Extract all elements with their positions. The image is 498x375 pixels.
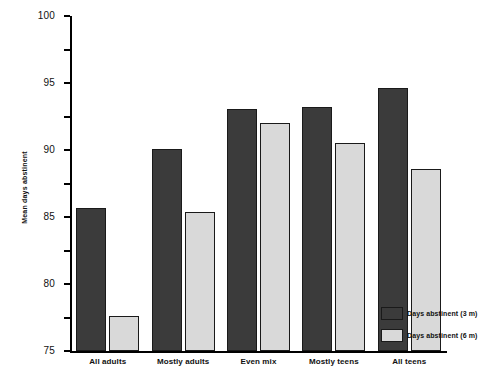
y-axis-tick-label: 90 — [43, 144, 55, 155]
x-axis-category-label: All teens — [372, 357, 447, 366]
bar-group: Mostly teens — [296, 16, 371, 351]
bar — [302, 107, 332, 351]
y-axis-tick-label: 95 — [43, 77, 55, 88]
bar-group: All teens — [372, 16, 447, 351]
bar-chart: Mean days abstinent 50556065707580859095… — [0, 0, 498, 375]
bar — [260, 123, 290, 351]
y-axis-tick-label: 85 — [43, 211, 55, 222]
bar — [185, 212, 215, 351]
x-axis-category-label: Even mix — [221, 357, 296, 366]
y-axis-tick-label: 80 — [43, 278, 55, 289]
legend-label: Days abstinent (3 m) — [407, 310, 477, 317]
bar — [76, 208, 106, 351]
x-axis-line — [70, 351, 447, 353]
y-axis-label: Mean days abstinent — [14, 0, 34, 375]
legend-label: Days abstinent (6 m) — [407, 332, 477, 339]
y-axis-tick-label: 75 — [43, 345, 55, 356]
legend-item: Days abstinent (3 m) — [381, 306, 498, 320]
bar — [335, 143, 365, 351]
x-axis-category-label: All adults — [70, 357, 145, 366]
legend-swatch — [381, 307, 403, 320]
plot-area: 50556065707580859095100 All adultsMostly… — [70, 16, 465, 351]
bar-group: Even mix — [221, 16, 296, 351]
y-axis-label-text: Mean days abstinent — [21, 151, 28, 224]
bar — [109, 316, 139, 351]
x-axis-category-label: Mostly adults — [145, 357, 220, 366]
bar-group: All adults — [70, 16, 145, 351]
bar — [152, 149, 182, 351]
x-axis-category-label: Mostly teens — [296, 357, 371, 366]
legend-item: Days abstinent (6 m) — [381, 328, 498, 342]
legend: Days abstinent (3 m)Days abstinent (6 m) — [381, 306, 498, 350]
bar-group: Mostly adults — [145, 16, 220, 351]
y-axis-tick-label: 100 — [38, 10, 55, 21]
bar — [227, 109, 257, 351]
legend-swatch — [381, 329, 403, 342]
